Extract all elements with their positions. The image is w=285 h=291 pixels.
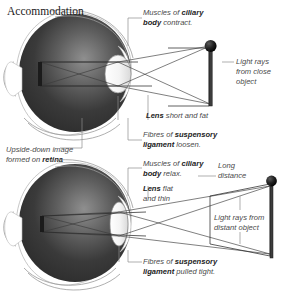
label-lens-near: Lens short and fat bbox=[146, 111, 209, 120]
page-title: Accommodation bbox=[7, 5, 84, 17]
label-ciliary-near: Muscles of ciliary bbox=[143, 8, 204, 17]
label-suspensory-far-line2: ligament pulled tight. bbox=[143, 267, 215, 276]
optic-nerve bbox=[5, 62, 22, 96]
optic-nerve-far bbox=[5, 212, 22, 246]
accommodation-diagram: Muscles of ciliary body contract. Lens s… bbox=[0, 0, 285, 291]
retinal-image bbox=[38, 62, 42, 86]
label-light-rays-near-line3: object bbox=[236, 77, 257, 86]
lens-icon-far bbox=[110, 202, 128, 246]
label-lens-far-line2: and thin bbox=[143, 194, 170, 203]
label-distance-line1: Long bbox=[218, 161, 236, 170]
label-light-rays-near-line2: from close bbox=[236, 67, 271, 76]
label-lens-far: Lens flat bbox=[143, 184, 174, 193]
label-retina-line1: Upside-down image bbox=[6, 145, 73, 154]
label-suspensory-far: Fibres of suspensory bbox=[143, 257, 218, 266]
label-light-rays-near: Light rays bbox=[236, 57, 269, 66]
label-light-rays-far-line2: distant object bbox=[214, 223, 260, 232]
label-ciliary-far-line2: body relax. bbox=[143, 169, 182, 178]
label-retina-line2: formed on retina bbox=[6, 155, 63, 164]
label-suspensory-near-line2: ligament loosen. bbox=[143, 140, 201, 149]
label-ciliary-near-line2: body contract. bbox=[143, 18, 192, 27]
label-ciliary-far: Muscles of ciliary bbox=[143, 159, 204, 168]
label-light-rays-far-line1: Light rays from bbox=[214, 213, 264, 222]
label-suspensory-near: Fibres of suspensory bbox=[143, 130, 218, 139]
label-distance-line2: distance bbox=[218, 171, 246, 180]
retinal-image-far bbox=[40, 216, 44, 232]
